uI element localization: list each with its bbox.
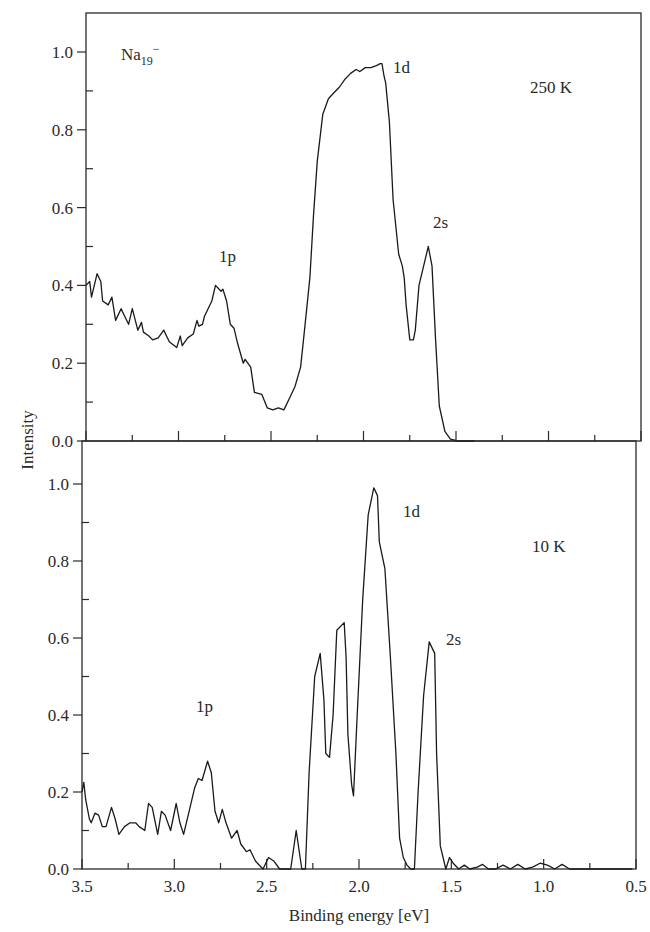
top-x-axis-ticks: [86, 431, 641, 441]
peak-label-2s-top: 2s: [433, 213, 448, 232]
top-panel: 0.00.20.40.60.81.0 Na19− 250 K 1p 1d 2s: [52, 13, 641, 451]
peak-label-1d-top: 1d: [393, 58, 411, 77]
bottom-y-axis: 0.00.20.40.60.81.0: [48, 475, 89, 879]
peak-label-1p-top: 1p: [219, 247, 236, 266]
y-tick-label: 0.8: [52, 121, 73, 140]
top-y-axis: 0.00.20.40.60.81.0: [52, 43, 93, 451]
peak-label-2s-bottom: 2s: [446, 630, 461, 649]
bottom-x-axis: 3.53.02.52.01.51.00.5: [71, 859, 646, 896]
y-tick-label: 0.6: [48, 629, 69, 648]
y-tick-label: 1.0: [52, 43, 73, 62]
y-tick-label: 0.4: [52, 276, 74, 295]
y-tick-label: 0.4: [48, 706, 70, 725]
temperature-label-10k: 10 K: [532, 537, 566, 556]
x-tick-label: 1.5: [441, 877, 462, 896]
bottom-panel: 0.00.20.40.60.81.0 3.53.02.52.01.51.00.5…: [48, 441, 647, 896]
y-tick-label: 0.6: [52, 199, 73, 218]
x-tick-label: 1.0: [533, 877, 554, 896]
y-tick-label: 1.0: [48, 475, 69, 494]
y-tick-label: 0.0: [48, 860, 69, 879]
spectra-figure: 0.00.20.40.60.81.0 Na19− 250 K 1p 1d 2s …: [0, 0, 650, 932]
x-tick-label: 3.0: [164, 877, 185, 896]
bottom-plot-frame: [82, 441, 636, 869]
y-axis-title: Intensity: [18, 410, 37, 470]
y-tick-label: 0.0: [52, 432, 73, 451]
temperature-label-250k: 250 K: [530, 78, 573, 97]
x-tick-label: 0.5: [625, 877, 646, 896]
y-tick-label: 0.8: [48, 552, 69, 571]
x-axis-title: Binding energy [eV]: [289, 906, 429, 925]
x-tick-label: 2.5: [256, 877, 277, 896]
y-tick-label: 0.2: [52, 354, 73, 373]
peak-label-1d-bottom: 1d: [403, 502, 421, 521]
peak-label-1p-bottom: 1p: [196, 697, 213, 716]
x-tick-label: 2.0: [348, 877, 369, 896]
y-tick-label: 0.2: [48, 783, 69, 802]
species-label: Na19−: [121, 42, 160, 68]
x-tick-label: 3.5: [71, 877, 92, 896]
spectrum-250k-line: [86, 64, 475, 441]
